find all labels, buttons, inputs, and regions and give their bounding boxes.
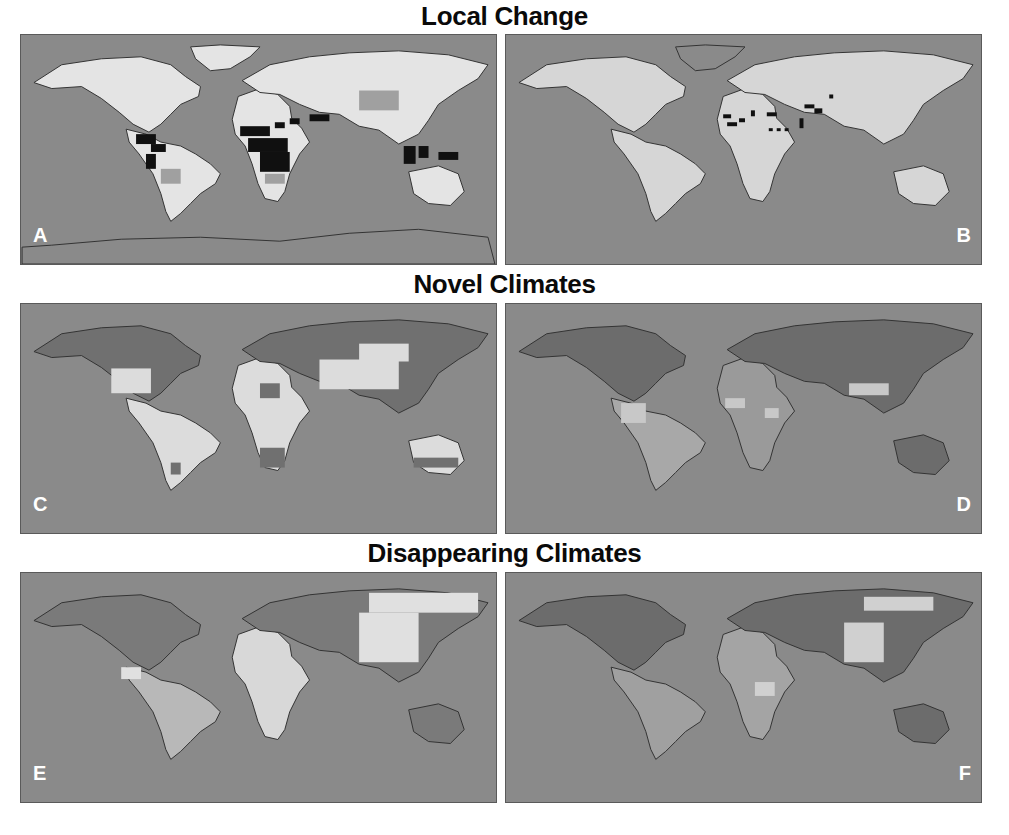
map-panel-c: C [20,303,497,534]
world-map-a [21,35,496,264]
panel-label-d: D [957,494,971,514]
world-map-f [506,573,981,802]
panel-label-f: F [959,763,971,783]
world-map-d [506,304,981,533]
world-map-e [21,573,496,802]
panel-label-c: C [33,494,47,514]
panel-label-b: B [957,225,971,245]
world-map-b [506,35,981,264]
row-title-novel-climates: Novel Climates [0,269,1009,299]
world-map-c [21,304,496,533]
panel-label-e: E [33,763,46,783]
map-panel-e: E [20,572,497,803]
row-title-local-change: Local Change [0,1,1009,31]
row-title-disappearing-climates: Disappearing Climates [0,538,1009,568]
map-panel-a: A [20,34,497,265]
map-panel-d: D [505,303,982,534]
map-panel-b: B [505,34,982,265]
panel-label-a: A [33,225,47,245]
map-panel-f: F [505,572,982,803]
